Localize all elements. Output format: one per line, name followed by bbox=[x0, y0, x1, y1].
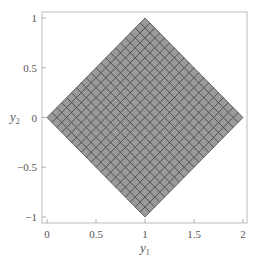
y-tick-label: 1 bbox=[32, 12, 38, 24]
x-tick-label: 0.5 bbox=[89, 228, 103, 240]
diamond-region bbox=[47, 18, 243, 217]
y-tick-label: −1 bbox=[25, 211, 37, 223]
x-tick-label: 1 bbox=[142, 228, 148, 240]
x-tick-label: 2 bbox=[240, 228, 246, 240]
y-tick-label: 0.5 bbox=[23, 62, 37, 74]
y-tick-label: 0 bbox=[32, 112, 38, 124]
y-axis-label: y2 bbox=[8, 109, 20, 126]
y-tick-label: −0.5 bbox=[17, 161, 37, 173]
x-tick-label: 0 bbox=[44, 228, 50, 240]
x-axis-label: y1 bbox=[138, 240, 150, 257]
plot-canvas: 00.511.52−1−0.500.51 y1 y2 bbox=[0, 0, 260, 265]
x-tick-label: 1.5 bbox=[187, 228, 201, 240]
